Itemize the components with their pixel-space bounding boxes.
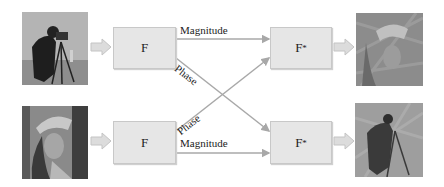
inverse-label: F: [295, 135, 302, 151]
output-image-top: [356, 13, 423, 86]
inverse-superscript: *: [302, 138, 307, 148]
fourier-transform-box-top: F: [113, 27, 176, 69]
block-arrow-bottom-right: [334, 133, 354, 149]
fourier-label: F: [141, 135, 148, 151]
block-arrow-top-right: [334, 39, 354, 55]
inverse-transform-box-top: F*: [270, 27, 332, 69]
output-cameraman-texture: [355, 103, 423, 177]
fourier-label: F: [141, 40, 148, 56]
inverse-superscript: *: [302, 43, 307, 53]
block-arrow-top-left: [91, 39, 111, 55]
output-lena-texture: [356, 13, 423, 86]
top-magnitude-label: Magnitude: [180, 24, 228, 36]
inverse-transform-box-bottom: F*: [270, 121, 332, 164]
fourier-transform-box-bottom: F: [113, 121, 176, 164]
inverse-label: F: [295, 40, 302, 56]
output-image-bottom: [355, 103, 423, 177]
bottom-magnitude-label: Magnitude: [180, 137, 228, 149]
block-arrow-bottom-left: [91, 133, 111, 149]
